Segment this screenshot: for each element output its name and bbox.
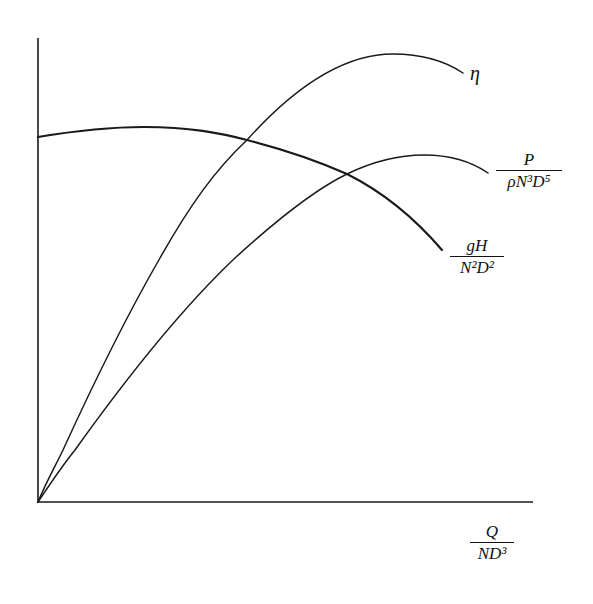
fraction-bar bbox=[470, 542, 514, 543]
fraction-bar bbox=[496, 170, 562, 171]
x-axis-label: Q ND³ bbox=[470, 522, 514, 563]
x-axis-label-numerator: Q bbox=[486, 522, 498, 541]
efficiency-label: η bbox=[470, 62, 480, 85]
power-label: P ρN³D⁵ bbox=[496, 150, 562, 191]
efficiency-curve bbox=[38, 54, 463, 502]
head-label-numerator: gH bbox=[467, 236, 488, 255]
diagram-canvas bbox=[0, 0, 593, 604]
efficiency-symbol: η bbox=[470, 62, 480, 84]
head-label-denominator: N²D² bbox=[460, 258, 494, 277]
head-label: gH N²D² bbox=[450, 236, 504, 277]
x-axis-label-denominator: ND³ bbox=[478, 544, 507, 563]
head-curve bbox=[38, 127, 442, 250]
fraction-bar bbox=[450, 256, 504, 257]
power-label-denominator: ρN³D⁵ bbox=[508, 172, 551, 191]
power-curve bbox=[38, 155, 488, 502]
power-label-numerator: P bbox=[524, 150, 534, 169]
